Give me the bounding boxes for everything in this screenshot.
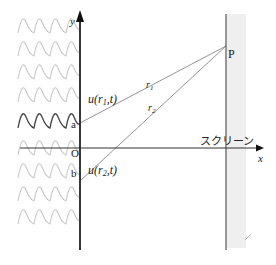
point-p-label: P bbox=[228, 47, 235, 61]
wave-row-8 bbox=[18, 187, 80, 201]
wave-row-2 bbox=[18, 42, 80, 56]
wave-row-3 bbox=[18, 65, 80, 79]
slit-a-label: a bbox=[71, 118, 76, 130]
path-label-r1: r1 bbox=[146, 79, 153, 92]
double-slit-diagram: y x O a b u(r1,t) u(r2,t) r1 r2 P スクリーン bbox=[0, 0, 276, 265]
wave-label-a: u(r1,t) bbox=[88, 92, 117, 107]
x-axis-label: x bbox=[257, 152, 263, 164]
x-axis-arrow-icon bbox=[256, 145, 264, 152]
y-axis-label: y bbox=[69, 15, 75, 27]
origin-label: O bbox=[71, 147, 79, 159]
screen-label: スクリーン bbox=[200, 135, 254, 148]
wave-label-b: u(r2,t) bbox=[88, 163, 117, 178]
wave-row-4 bbox=[18, 88, 80, 102]
wave-row-9 bbox=[18, 210, 80, 224]
y-axis-arrow-icon bbox=[76, 10, 84, 22]
slit-b-label: b bbox=[71, 167, 77, 179]
path-label-r2: r2 bbox=[148, 102, 156, 115]
